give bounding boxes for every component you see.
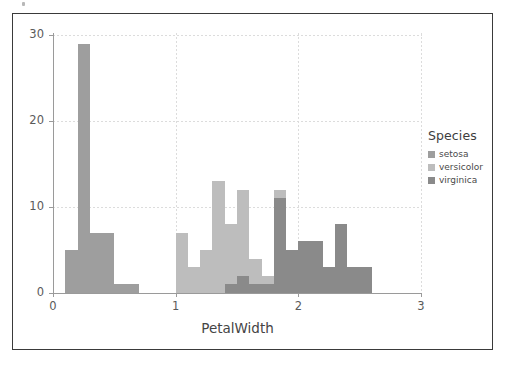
legend-item-label: versicolor bbox=[439, 162, 483, 172]
x-tick-mark bbox=[298, 293, 299, 297]
histogram-bar bbox=[212, 181, 224, 293]
legend-title: Species bbox=[428, 128, 502, 143]
legend-item[interactable]: virginica bbox=[428, 175, 502, 185]
x-tick-label: 0 bbox=[33, 299, 73, 313]
y-tick-label: 20 bbox=[4, 113, 44, 127]
x-tick-label: 3 bbox=[401, 299, 441, 313]
y-tick-label: 0 bbox=[4, 285, 44, 299]
y-tick-mark bbox=[49, 35, 53, 36]
y-tick-mark bbox=[49, 293, 53, 294]
legend-swatch-icon bbox=[428, 164, 435, 171]
legend-item[interactable]: versicolor bbox=[428, 162, 502, 172]
histogram-bar bbox=[311, 241, 323, 293]
histogram-bar bbox=[114, 284, 126, 293]
legend-item[interactable]: setosa bbox=[428, 149, 502, 159]
histogram-bar bbox=[127, 284, 139, 293]
histogram-bar bbox=[262, 284, 274, 293]
legend-swatch-icon bbox=[428, 151, 435, 158]
histogram-bar bbox=[225, 284, 237, 293]
histogram-bar bbox=[90, 233, 102, 293]
legend-item-label: virginica bbox=[439, 175, 477, 185]
histogram-bar bbox=[298, 241, 310, 293]
x-tick-mark bbox=[176, 293, 177, 297]
histogram-bar bbox=[323, 267, 335, 293]
histogram-bar bbox=[237, 276, 249, 293]
histogram-bar bbox=[225, 224, 237, 293]
legend-items: setosaversicolorvirginica bbox=[428, 149, 502, 185]
y-tick-mark bbox=[49, 207, 53, 208]
legend: Species setosaversicolorvirginica bbox=[428, 128, 502, 188]
histogram-bar bbox=[360, 267, 372, 293]
histogram-bar bbox=[188, 267, 200, 293]
x-axis-label: PetalWidth bbox=[53, 320, 422, 336]
plot-area: 0123 0102030 PetalWidth Species setosave… bbox=[0, 0, 507, 365]
y-tick-label: 10 bbox=[4, 199, 44, 213]
histogram-bar bbox=[102, 233, 114, 293]
histogram-bar bbox=[286, 250, 298, 293]
histogram-bars bbox=[53, 33, 422, 293]
histogram-bar bbox=[176, 233, 188, 293]
histogram-bar bbox=[78, 44, 90, 293]
histogram-bar bbox=[347, 267, 359, 293]
histogram-bar bbox=[65, 250, 77, 293]
histogram-bar bbox=[249, 284, 261, 293]
histogram-bar bbox=[335, 224, 347, 293]
y-tick-label: 30 bbox=[4, 27, 44, 41]
x-tick-mark bbox=[53, 293, 54, 297]
x-tick-mark bbox=[421, 293, 422, 297]
histogram-bar bbox=[200, 250, 212, 293]
legend-swatch-icon bbox=[428, 177, 435, 184]
legend-item-label: setosa bbox=[439, 149, 468, 159]
x-tick-label: 2 bbox=[278, 299, 318, 313]
histogram-bar bbox=[274, 198, 286, 293]
x-tick-label: 1 bbox=[156, 299, 196, 313]
y-tick-mark bbox=[49, 121, 53, 122]
x-axis-line bbox=[53, 293, 422, 294]
